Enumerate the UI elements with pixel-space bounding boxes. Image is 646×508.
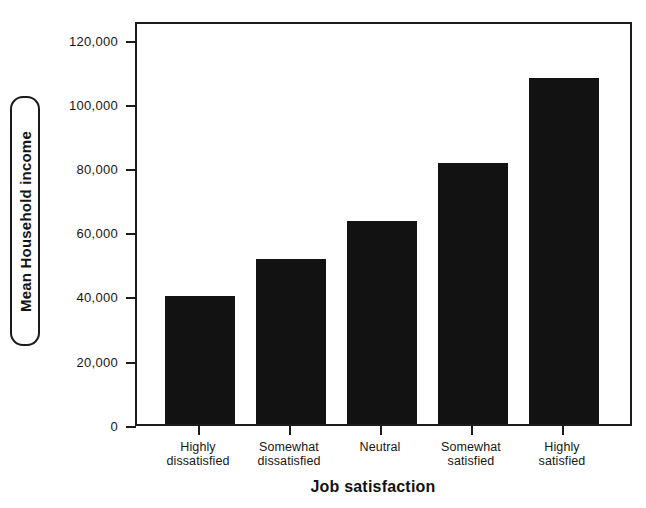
y-tick-label-100000: 100,000 (26, 98, 118, 113)
y-tick-mark-0 (126, 426, 136, 428)
y-tick-label-0: 0 (26, 419, 118, 434)
bar-1[interactable] (256, 259, 326, 424)
x-tick-mark-4 (562, 426, 564, 435)
x-tick-label-4-line1: Highly (507, 440, 617, 454)
x-axis-title-label: Job satisfaction (310, 478, 435, 496)
y-tick-label-120000: 120,000 (26, 34, 118, 49)
y-tick-label-80000: 80,000 (26, 162, 118, 177)
bar-3[interactable] (438, 163, 508, 424)
x-axis-title: Job satisfaction (0, 478, 646, 496)
bar-4[interactable] (529, 78, 599, 424)
bars-layer (137, 24, 630, 424)
y-axis-title-box[interactable]: Mean Household income (10, 96, 40, 346)
plot-area (135, 22, 632, 426)
y-tick-label-40000: 40,000 (26, 290, 118, 305)
bar-chart: Mean Household income 0 20,000 40,000 60… (0, 0, 646, 508)
x-tick-mark-0 (198, 426, 200, 435)
bar-2[interactable] (347, 221, 417, 424)
x-tick-label-1-line2: dissatisfied (234, 454, 344, 468)
x-tick-mark-1 (289, 426, 291, 435)
y-tick-label-60000: 60,000 (26, 226, 118, 241)
bar-0[interactable] (165, 296, 235, 424)
x-tick-mark-2 (380, 426, 382, 435)
y-axis-title-label: Mean Household income (17, 131, 34, 312)
x-tick-label-4: Highly satisfied (507, 440, 617, 468)
y-tick-label-20000: 20,000 (26, 355, 118, 370)
x-tick-mark-3 (471, 426, 473, 435)
x-tick-label-4-line2: satisfied (507, 454, 617, 468)
